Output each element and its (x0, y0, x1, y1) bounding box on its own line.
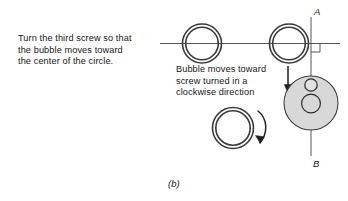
instruction-text: Turn the third screw so that the bubble … (18, 33, 132, 68)
instruction-line-3: the center of the circle. (18, 56, 113, 66)
screw-ring-bottom (213, 108, 254, 149)
right-angle-marker (311, 44, 320, 53)
clockwise-curved-arrow (256, 111, 266, 143)
instruction-line-2: the bubble moves toward (18, 45, 123, 55)
instrument-leveling-diagram (0, 0, 348, 201)
bubble-note-line-1: Bubble moves toward (176, 64, 266, 74)
bubble-note-line-2: screw turned in a (176, 76, 248, 86)
bubble-circle (305, 79, 317, 91)
bubble-note-line-3: clockwise direction (176, 87, 254, 97)
figure-caption: (b) (168, 178, 180, 189)
axis-label-a: A (314, 6, 320, 17)
axis-label-b: B (313, 158, 319, 169)
bubble-note-text: Bubble moves toward screw turned in a cl… (176, 64, 266, 99)
instruction-line-1: Turn the third screw so that (18, 33, 132, 43)
figure-page: Turn the third screw so that the bubble … (0, 0, 348, 201)
